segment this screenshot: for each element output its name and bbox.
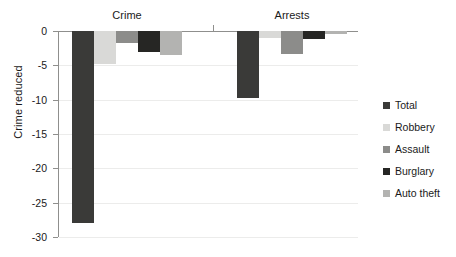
gridline bbox=[59, 65, 358, 66]
y-axis-tick bbox=[53, 134, 58, 135]
bar-chart: Crime reduced 0-5-10-15-20-25-30 CrimeAr… bbox=[0, 0, 456, 257]
bar-arrests-auto-theft bbox=[325, 31, 347, 34]
y-axis-tick bbox=[53, 203, 58, 204]
y-axis-tick-label: -10 bbox=[0, 94, 47, 106]
bar-arrests-robbery bbox=[259, 31, 281, 38]
y-axis-tick bbox=[53, 100, 58, 101]
bar-arrests-total bbox=[237, 31, 259, 98]
bar-crime-robbery bbox=[94, 31, 116, 64]
chart-legend: TotalRobberyAssaultBurglaryAuto theft bbox=[383, 94, 440, 204]
legend-swatch-icon bbox=[383, 124, 390, 131]
y-axis-tick-label: -5 bbox=[0, 59, 47, 71]
y-axis-tick bbox=[53, 31, 58, 32]
bar-arrests-assault bbox=[281, 31, 303, 54]
bar-crime-auto-theft bbox=[160, 31, 182, 55]
legend-label: Total bbox=[395, 99, 417, 111]
legend-item: Assault bbox=[383, 138, 440, 160]
y-axis-tick-label: -20 bbox=[0, 162, 47, 174]
gridline bbox=[59, 203, 358, 204]
bar-crime-burglary bbox=[138, 31, 160, 52]
y-axis-tick-label: -15 bbox=[0, 128, 47, 140]
bar-crime-total bbox=[72, 31, 94, 223]
legend-item: Total bbox=[383, 94, 440, 116]
legend-item: Burglary bbox=[383, 160, 440, 182]
gridline bbox=[59, 134, 358, 135]
y-axis-tick-label: -30 bbox=[0, 231, 47, 243]
legend-label: Assault bbox=[395, 143, 429, 155]
plot-area bbox=[59, 31, 358, 237]
bar-arrests-burglary bbox=[303, 31, 325, 39]
legend-swatch-icon bbox=[383, 102, 390, 109]
group-separator-tick bbox=[213, 25, 214, 31]
legend-label: Burglary bbox=[395, 165, 434, 177]
gridline bbox=[59, 168, 358, 169]
y-axis-tick bbox=[53, 237, 58, 238]
y-axis-tick-label: 0 bbox=[0, 25, 47, 37]
group-label-arrests: Arrests bbox=[275, 9, 310, 21]
bar-crime-assault bbox=[116, 31, 138, 43]
legend-item: Auto theft bbox=[383, 182, 440, 204]
legend-label: Robbery bbox=[395, 121, 435, 133]
legend-swatch-icon bbox=[383, 190, 390, 197]
y-axis-tick-label: -25 bbox=[0, 197, 47, 209]
group-label-crime: Crime bbox=[112, 9, 141, 21]
gridline bbox=[59, 237, 358, 238]
legend-swatch-icon bbox=[383, 146, 390, 153]
legend-item: Robbery bbox=[383, 116, 440, 138]
y-axis-tick bbox=[53, 65, 58, 66]
gridline bbox=[59, 100, 358, 101]
legend-label: Auto theft bbox=[395, 187, 440, 199]
y-axis-tick bbox=[53, 168, 58, 169]
legend-swatch-icon bbox=[383, 168, 390, 175]
